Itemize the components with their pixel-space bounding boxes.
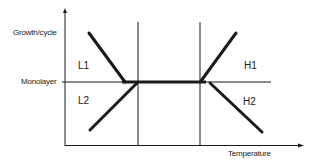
region-label-h2: H2 <box>243 97 256 107</box>
region-label-l1: L1 <box>78 61 89 71</box>
curve-h1 <box>201 33 236 81</box>
x-axis-label: Temperature <box>228 150 271 158</box>
curve-l2 <box>90 83 137 130</box>
x-axis-arrow-icon <box>298 144 304 148</box>
y-axis-label: Growth/cycle <box>13 29 57 37</box>
region-label-h1: H1 <box>244 61 257 71</box>
region-label-l2: L2 <box>78 96 89 106</box>
ald-growth-window-diagram: Growth/cycle Monolayer Temperature L1 L2… <box>0 0 312 162</box>
curve-l1 <box>89 33 125 82</box>
y-axis-arrow-icon <box>63 8 67 13</box>
monolayer-label: Monolayer <box>21 78 57 86</box>
curve-h2 <box>210 83 262 132</box>
